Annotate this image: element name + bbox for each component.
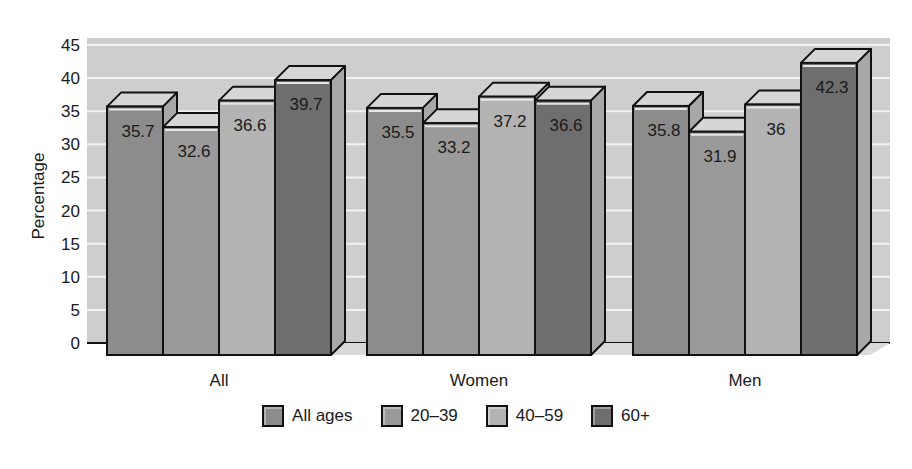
bar: 39.7 (275, 66, 345, 355)
value-label: 36 (767, 120, 786, 139)
y-tick-label: 20 (61, 202, 80, 221)
legend-swatch (381, 405, 403, 427)
y-axis-ticks: 051015202530354045 (61, 36, 80, 353)
y-tick-label: 0 (71, 334, 80, 353)
legend-item: All ages (262, 405, 352, 427)
value-label: 39.7 (289, 95, 322, 114)
value-label: 33.2 (437, 138, 470, 157)
legend-item: 40–59 (486, 405, 563, 427)
legend-label: All ages (292, 406, 352, 426)
y-axis-label: Percentage (29, 153, 48, 240)
bar-group-all: 35.732.636.639.7 (107, 66, 345, 355)
legend-item: 20–39 (381, 405, 458, 427)
y-tick-label: 45 (61, 36, 80, 55)
category-label: Women (450, 371, 508, 390)
y-tick-label: 40 (61, 69, 80, 88)
value-label: 35.8 (647, 121, 680, 140)
value-label: 32.6 (177, 142, 210, 161)
legend-label: 20–39 (411, 406, 458, 426)
legend-label: 40–59 (516, 406, 563, 426)
bar-group-women: 35.533.237.236.6 (367, 83, 605, 355)
legend-swatch (486, 405, 508, 427)
y-tick-label: 10 (61, 268, 80, 287)
legend-label: 60+ (621, 406, 650, 426)
value-label: 36.6 (233, 116, 266, 135)
y-tick-label: 25 (61, 168, 80, 187)
y-tick-label: 15 (61, 235, 80, 254)
value-label: 35.5 (381, 123, 414, 142)
bar-chart: 051015202530354045 Percentage 35.732.636… (0, 0, 912, 400)
value-label: 35.7 (121, 122, 154, 141)
value-label: 42.3 (815, 78, 848, 97)
bar: 42.3 (801, 49, 871, 355)
bar: 36.6 (535, 87, 605, 355)
legend-item: 60+ (591, 405, 650, 427)
category-labels: AllWomenMen (210, 371, 762, 390)
value-label: 37.2 (493, 112, 526, 131)
legend-swatch (262, 405, 284, 427)
value-label: 31.9 (703, 147, 736, 166)
legend: All ages20–3940–5960+ (0, 405, 912, 427)
category-label: All (210, 371, 229, 390)
y-tick-label: 35 (61, 102, 80, 121)
y-tick-label: 5 (71, 301, 80, 320)
value-label: 36.6 (549, 116, 582, 135)
category-label: Men (728, 371, 761, 390)
legend-swatch (591, 405, 613, 427)
y-tick-label: 30 (61, 135, 80, 154)
